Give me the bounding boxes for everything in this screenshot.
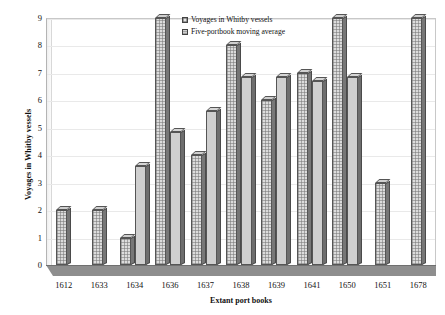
bar-group bbox=[294, 18, 329, 265]
bar-voyages[interactable] bbox=[191, 155, 202, 265]
chart-floor bbox=[46, 265, 436, 276]
bar-side bbox=[67, 208, 71, 265]
legend-label-moving-average: Five-portbook moving average bbox=[191, 27, 285, 38]
x-tick-label: 1650 bbox=[327, 280, 367, 290]
bar-voyages[interactable] bbox=[375, 183, 386, 265]
x-tick-label: 1637 bbox=[186, 280, 226, 290]
bar-face bbox=[206, 111, 217, 265]
y-tick-label: 4 bbox=[26, 150, 42, 160]
bar-side bbox=[358, 75, 362, 265]
y-tick-label: 3 bbox=[26, 178, 42, 188]
bar-side bbox=[422, 16, 426, 265]
bar-face bbox=[261, 100, 272, 265]
legend-swatch-icon-voyages bbox=[182, 17, 188, 23]
bar-moving-average[interactable] bbox=[135, 166, 146, 265]
legend-item-voyages[interactable]: Voyages in Whitby vessels bbox=[182, 15, 285, 26]
x-axis-tick-labels: 1612163316341636163716381639164116501651… bbox=[46, 280, 436, 292]
bar-group bbox=[223, 18, 258, 265]
y-tick-label: 6 bbox=[26, 95, 42, 105]
bar-moving-average[interactable] bbox=[312, 81, 323, 265]
bar-voyages[interactable] bbox=[261, 100, 272, 265]
bar-face bbox=[276, 77, 287, 265]
legend-label-voyages: Voyages in Whitby vessels bbox=[191, 15, 272, 26]
x-axis-line bbox=[46, 265, 436, 266]
bar-side bbox=[103, 208, 107, 265]
y-tick-label: 5 bbox=[26, 123, 42, 133]
bar-face bbox=[56, 210, 67, 265]
x-tick-label: 1651 bbox=[363, 280, 403, 290]
bar-group bbox=[152, 18, 187, 265]
bar-side bbox=[386, 181, 390, 265]
bar-side bbox=[308, 71, 312, 265]
bar-moving-average[interactable] bbox=[206, 111, 217, 265]
bar-face bbox=[297, 73, 308, 265]
bar-side bbox=[131, 235, 135, 265]
bar-voyages[interactable] bbox=[120, 238, 131, 265]
bar-face bbox=[155, 18, 166, 265]
y-tick-label: 7 bbox=[26, 68, 42, 78]
bar-face bbox=[347, 77, 358, 265]
y-tick-label: 9 bbox=[26, 13, 42, 23]
bar-group bbox=[401, 18, 436, 265]
bar-face bbox=[135, 166, 146, 265]
x-tick-label: 1612 bbox=[44, 280, 84, 290]
x-tick-label: 1636 bbox=[150, 280, 190, 290]
bar-face bbox=[191, 155, 202, 265]
bar-moving-average[interactable] bbox=[241, 77, 252, 265]
bar-side bbox=[252, 75, 256, 265]
legend-item-moving-average[interactable]: Five-portbook moving average bbox=[182, 27, 285, 38]
x-tick-label: 1678 bbox=[398, 280, 438, 290]
bar-face bbox=[120, 238, 131, 265]
bar-face bbox=[312, 81, 323, 265]
bar-side bbox=[217, 109, 221, 265]
x-tick-label: 1641 bbox=[292, 280, 332, 290]
chart-legend: Voyages in Whitby vessels Five-portbook … bbox=[182, 15, 285, 39]
bar-group bbox=[365, 18, 400, 265]
bar-side bbox=[343, 16, 347, 265]
bar-chart: Voyages in Whitby vessels 0123456789 Voy… bbox=[0, 0, 445, 315]
x-tick-label: 1634 bbox=[115, 280, 155, 290]
bar-face bbox=[411, 18, 422, 265]
y-tick-label: 1 bbox=[26, 233, 42, 243]
bar-face bbox=[241, 77, 252, 265]
x-tick-label: 1638 bbox=[221, 280, 261, 290]
y-tick-label: 2 bbox=[26, 205, 42, 215]
x-tick-label: 1633 bbox=[79, 280, 119, 290]
x-axis-title: Extant port books bbox=[46, 296, 436, 305]
bar-side bbox=[323, 79, 327, 265]
bar-moving-average[interactable] bbox=[276, 77, 287, 265]
y-tick-label: 0 bbox=[26, 260, 42, 270]
x-tick-label: 1639 bbox=[256, 280, 296, 290]
bar-group bbox=[330, 18, 365, 265]
bar-face bbox=[170, 132, 181, 265]
bar-voyages[interactable] bbox=[411, 18, 422, 265]
chart-floor-surface bbox=[46, 265, 436, 276]
bar-face bbox=[332, 18, 343, 265]
bar-group bbox=[46, 18, 81, 265]
bar-side bbox=[146, 164, 150, 265]
bar-voyages[interactable] bbox=[92, 210, 103, 265]
bars-layer bbox=[46, 18, 436, 265]
bar-face bbox=[226, 45, 237, 265]
bar-face bbox=[92, 210, 103, 265]
y-tick-label: 8 bbox=[26, 40, 42, 50]
bar-group bbox=[188, 18, 223, 265]
bar-group bbox=[259, 18, 294, 265]
bar-side bbox=[272, 98, 276, 265]
bar-moving-average[interactable] bbox=[170, 132, 181, 265]
bar-side bbox=[287, 75, 291, 265]
bar-side bbox=[202, 153, 206, 265]
bar-face bbox=[375, 183, 386, 265]
bar-group bbox=[81, 18, 116, 265]
bar-voyages[interactable] bbox=[226, 45, 237, 265]
bar-moving-average[interactable] bbox=[347, 77, 358, 265]
bar-side bbox=[237, 43, 241, 265]
bar-side bbox=[166, 16, 170, 265]
bar-group bbox=[117, 18, 152, 265]
bar-voyages[interactable] bbox=[332, 18, 343, 265]
bar-voyages[interactable] bbox=[155, 18, 166, 265]
bar-voyages[interactable] bbox=[297, 73, 308, 265]
bar-side bbox=[181, 130, 185, 265]
bar-voyages[interactable] bbox=[56, 210, 67, 265]
y-axis-tick-labels: 0123456789 bbox=[26, 18, 42, 265]
